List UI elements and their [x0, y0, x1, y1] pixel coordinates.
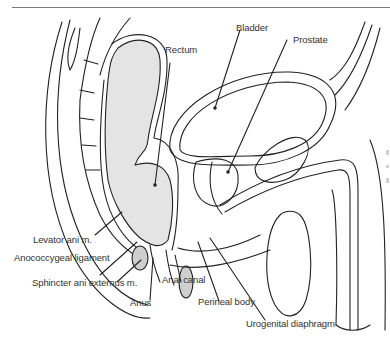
label-anococcygeal-ligament: Anococcygeal ligament [14, 252, 110, 263]
label-rectum: Rectum [165, 44, 197, 55]
label-prostate: Prostate [293, 34, 328, 45]
prostate-outline [194, 159, 239, 206]
leader-bladder [215, 30, 240, 108]
label-urogenital-diaphragm: Urogenital diaphragm [246, 318, 335, 329]
leader-anus [150, 258, 153, 300]
label-levator-ani: Levator ani m. [33, 234, 92, 245]
label-perineal-body: Perineal body [198, 296, 255, 307]
leader-levator [95, 212, 122, 235]
leader-urogenital [210, 238, 265, 320]
clipped-text-fragment [386, 178, 389, 183]
testis-outline [267, 211, 311, 316]
rectum-outline [105, 40, 172, 245]
label-sphincter-ani-externus: Sphincter ani externus m. [32, 277, 137, 288]
clipped-text-fragment [386, 150, 389, 155]
leader-prostate [228, 40, 287, 172]
clipped-text-fragment [386, 165, 389, 168]
label-anus: Anus [130, 297, 151, 308]
label-anal-canal: Anal canal [162, 274, 205, 285]
label-bladder: Bladder [236, 22, 268, 33]
